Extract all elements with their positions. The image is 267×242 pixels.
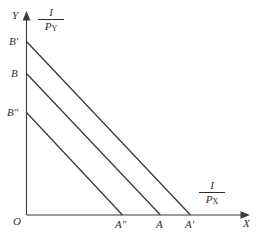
y-axis-quantity-fraction: I PY [38,7,64,33]
origin-label: O [13,216,21,227]
x-axis-denominator-subscript: X [212,197,218,206]
y-axis-denominator-subscript: Y [51,24,57,33]
x-axis-quantity-numerator: I [199,180,225,192]
x-intercept-label-a-prime: A′ [185,219,194,230]
y-axis-quantity-numerator: I [38,7,64,19]
x-axis-label: X [243,218,250,229]
x-axis-quantity-fraction: I PX [199,180,225,206]
plot-area [0,0,267,242]
budget-line-middle [27,74,160,215]
x-intercept-label-a: A [156,219,163,230]
x-intercept-label-a-double-prime: A″ [115,219,126,230]
budget-line-outer [27,42,190,215]
x-axis-quantity-denominator: PX [199,193,225,206]
y-intercept-label-b-prime: B′ [9,36,18,47]
y-axis-quantity-denominator: PY [38,20,64,33]
y-intercept-label-b-double-prime: B″ [7,107,18,118]
y-axis-arrowhead-icon [23,11,31,21]
y-intercept-label-b: B [11,68,18,79]
budget-line-figure: Y X O I PY I PX B′ B B″ A″ A A′ [0,0,267,242]
y-axis-label: Y [12,10,18,21]
